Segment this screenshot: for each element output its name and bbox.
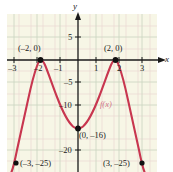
x-tick-label-2: 2 [117, 64, 121, 73]
x-tick-label-neg3: –3 [8, 64, 17, 73]
y-tick-label-neg10: –10 [59, 101, 72, 110]
x-tick-label-neg1: –1 [54, 64, 63, 73]
x-tick-label-3: 3 [140, 64, 144, 73]
y-tick-label-5: 5 [68, 33, 72, 42]
y-axis-label: y [73, 2, 77, 11]
y-tick-label-neg20: –20 [59, 146, 72, 155]
annotation-neg2-0: (–2, 0) [18, 44, 41, 53]
point-neg3-neg25 [13, 160, 18, 165]
function-graph [0, 0, 173, 172]
x-tick-label-neg2: –2 [34, 64, 43, 73]
function-label: f(x) [100, 100, 112, 109]
annotation-2-0: (2, 0) [104, 44, 122, 53]
x-tick-label-1: 1 [94, 64, 98, 73]
point-3-neg25 [139, 160, 144, 165]
y-tick-label-neg5: –5 [64, 78, 73, 87]
annotation-0-neg16: (0, –16) [79, 131, 106, 140]
annotation-neg3-neg25: (–3, –25) [20, 159, 51, 168]
annotation-3-neg25: (3, –25) [103, 159, 130, 168]
x-axis-label: x [165, 55, 169, 64]
